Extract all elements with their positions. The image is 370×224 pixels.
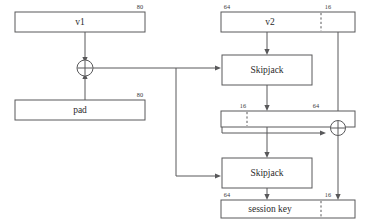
box-v2-bits-right: 16 [325,3,331,10]
xor-gate-right [331,121,346,136]
box-v2-label: v2 [265,17,275,27]
box-skipjack-top-label: Skipjack [250,65,283,75]
box-v2: v2 64 16 [221,3,355,32]
xor-gate-left [77,60,93,76]
box-session-key: session key 64 16 [221,191,355,218]
crypto-key-schedule-diagram: v1 80 pad 80 v2 64 16 Skipjack 16 64 [0,0,370,224]
box-session-key-bits-left: 64 [224,191,231,198]
wire-v1-to-xor-left [82,32,87,63]
wire-intermediate-to-skipjack-bottom [264,127,269,158]
box-skipjack-top: Skipjack [222,55,312,85]
wire-skipjack-top-to-intermediate [264,85,269,111]
box-v1: v1 80 [15,3,145,32]
box-session-key-bits-right: 16 [325,191,331,198]
box-intermediate-bits-right: 64 [313,102,320,109]
diagram-canvas: v1 80 pad 80 v2 64 16 Skipjack 16 64 [0,0,370,224]
box-v2-bits-left: 64 [224,3,231,10]
wire-pad-to-xor-left [82,73,87,100]
box-pad-bits: 80 [137,91,143,98]
wire-skipjack-bottom-to-session-key [264,188,269,200]
wire-v2-to-skipjack-top [264,32,269,55]
wire-intermediate-to-xor-right [222,127,326,136]
box-skipjack-bottom: Skipjack [222,158,312,188]
box-session-key-label: session key [248,204,292,214]
box-intermediate-bits-left: 16 [240,102,246,109]
wire-xor-left-to-skipjack-fanout [93,65,221,178]
box-skipjack-bottom-label: Skipjack [250,168,283,178]
box-pad: pad 80 [15,91,145,120]
box-v1-label: v1 [75,17,85,27]
box-v1-bits: 80 [137,3,143,10]
box-pad-label: pad [73,105,87,115]
